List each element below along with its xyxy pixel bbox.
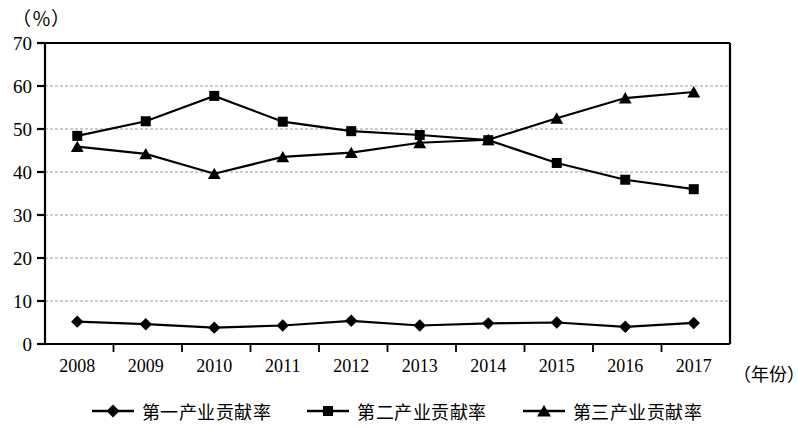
data-point-marker: [688, 317, 700, 329]
x-tick-label: 2011: [265, 356, 300, 376]
chart-legend: 第一产业贡献率 第二产业贡献率 第三产业贡献率: [0, 398, 792, 424]
legend-item-primary-industry[interactable]: 第一产业贡献率: [90, 398, 272, 424]
x-tick-label: 2015: [539, 356, 575, 376]
x-tick-label: 2017: [676, 356, 712, 376]
triangle-marker-icon: [521, 402, 567, 420]
data-series-group: [71, 86, 700, 334]
x-tick-label: 2010: [196, 356, 232, 376]
x-tick-label: 2013: [402, 356, 438, 376]
data-point-marker: [345, 315, 357, 327]
x-tick-labels: 2008200920102011201220132014201520162017: [59, 356, 712, 376]
data-point-marker: [277, 319, 289, 331]
y-tick-marks: [37, 43, 45, 344]
legend-label-primary-industry: 第一产业贡献率: [142, 398, 272, 424]
x-tick-marks: [114, 344, 662, 352]
data-point-marker: [72, 131, 82, 141]
legend-item-tertiary-industry[interactable]: 第三产业贡献率: [521, 398, 703, 424]
data-point-marker: [208, 321, 220, 333]
series-1: [71, 315, 700, 334]
data-point-marker: [346, 126, 356, 136]
diamond-marker-icon: [90, 402, 136, 420]
y-tick-label: 70: [13, 33, 32, 54]
x-tick-label: 2008: [59, 356, 95, 376]
plot-frame: [45, 43, 730, 344]
data-point-marker: [209, 91, 219, 101]
data-point-marker: [71, 315, 83, 327]
data-point-marker: [689, 184, 699, 194]
data-point-marker: [482, 317, 494, 329]
series-line: [77, 96, 694, 189]
x-tick-label: 2012: [333, 356, 369, 376]
y-tick-label: 30: [13, 205, 32, 226]
y-tick-labels: 010203040506070: [13, 33, 32, 355]
y-tick-label: 60: [13, 76, 32, 97]
y-tick-label: 40: [13, 162, 32, 183]
data-point-marker: [620, 175, 630, 185]
data-point-marker: [278, 117, 288, 127]
y-tick-label: 0: [23, 334, 33, 355]
x-axis-title: （年份）: [733, 360, 798, 386]
legend-label-secondary-industry: 第二产业贡献率: [357, 398, 487, 424]
square-marker-icon: [305, 402, 351, 420]
x-tick-label: 2016: [607, 356, 643, 376]
legend-item-secondary-industry[interactable]: 第二产业贡献率: [305, 398, 487, 424]
data-point-marker: [140, 318, 152, 330]
data-point-marker: [551, 316, 563, 328]
data-point-marker: [619, 321, 631, 333]
series-2: [72, 91, 699, 194]
y-tick-label: 50: [13, 119, 32, 140]
plot-area: 010203040506070 200820092010201120122013…: [0, 0, 792, 392]
data-point-marker: [141, 116, 151, 126]
y-tick-label: 20: [13, 248, 32, 269]
series-line: [77, 321, 694, 328]
data-point-marker: [552, 158, 562, 168]
y-tick-label: 10: [13, 291, 32, 312]
x-tick-label: 2009: [128, 356, 164, 376]
x-tick-label: 2014: [470, 356, 506, 376]
data-point-marker: [414, 319, 426, 331]
legend-label-tertiary-industry: 第三产业贡献率: [573, 398, 703, 424]
